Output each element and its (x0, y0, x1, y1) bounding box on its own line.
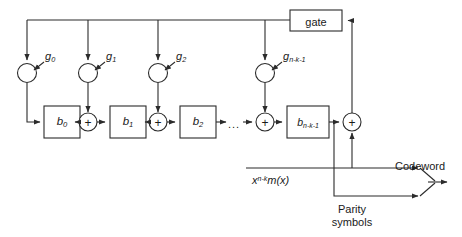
coef-arrow-gn (272, 62, 282, 70)
multiplier-label-gn: gn-k-1 (283, 50, 306, 64)
adder-symbol-4: + (344, 117, 360, 129)
multiplier-gn (256, 64, 275, 83)
register-label-b2: b2 (180, 115, 216, 129)
parity-label-line2: symbols (322, 216, 382, 228)
multiplier-g2 (149, 64, 168, 83)
adder-symbol-1: + (80, 117, 96, 129)
message-input-label: xn-km(x) (252, 174, 289, 186)
gate-feedback-path (348, 21, 352, 123)
codeword-label: Codeword (395, 160, 445, 172)
coef-arrow-g1 (95, 62, 105, 70)
adder-symbol-2: + (150, 117, 166, 129)
register-label-bn: bn-k-1 (287, 116, 329, 129)
mult-out-g0 (27, 83, 40, 122)
adder-symbol-3: + (257, 117, 273, 129)
chain-ellipsis: ... (228, 118, 240, 130)
coef-arrow-g2 (165, 62, 175, 70)
multiplier-label-g1: g1 (106, 50, 116, 64)
register-label-b1: b1 (110, 115, 146, 129)
gate-label: gate (293, 16, 339, 28)
encoder-diagram-canvas: gate g0 g1 g2 gn-k-1 b0 b1 b2 bn-k-1 + +… (0, 0, 462, 237)
multiplier-g0 (18, 64, 37, 83)
codeword-merge-lower (420, 183, 435, 196)
coef-arrow-g0 (34, 62, 44, 70)
parity-branch-path (334, 122, 418, 196)
parity-label-line1: Parity (322, 203, 382, 215)
parity-symbols-label: Parity symbols (322, 203, 382, 228)
multiplier-g1 (79, 64, 98, 83)
register-label-b0: b0 (44, 115, 80, 129)
multiplier-label-g0: g0 (45, 50, 55, 64)
multiplier-label-g2: g2 (176, 50, 186, 64)
